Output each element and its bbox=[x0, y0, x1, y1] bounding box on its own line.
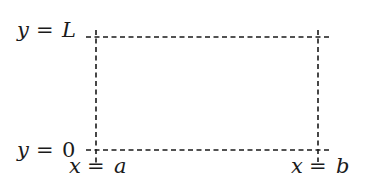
label-x-equals-b-eq: = bbox=[309, 154, 327, 178]
label-y-equals-0: y = 0 bbox=[16, 138, 75, 162]
label-x-equals-a-eq: = bbox=[87, 154, 105, 178]
label-x-equals-b-lhs: x bbox=[291, 154, 303, 178]
label-y-equals-L-eq: = bbox=[36, 18, 54, 42]
label-y-equals-L-rhs: L bbox=[61, 18, 76, 42]
label-x-equals-b: x = b bbox=[291, 154, 349, 178]
label-y-equals-L-lhs: y bbox=[16, 18, 30, 42]
rectangle-domain-diagram: y = L y = 0 x = a x = b bbox=[0, 0, 370, 181]
label-x-equals-b-rhs: b bbox=[336, 154, 349, 178]
label-y-equals-0-eq: = bbox=[36, 138, 54, 162]
label-x-equals-a-rhs: a bbox=[114, 154, 127, 178]
label-y-equals-0-lhs: y bbox=[16, 138, 30, 162]
label-x-equals-a: x = a bbox=[69, 154, 127, 178]
label-x-equals-a-lhs: x bbox=[69, 154, 81, 178]
label-y-equals-L: y = L bbox=[16, 18, 76, 42]
